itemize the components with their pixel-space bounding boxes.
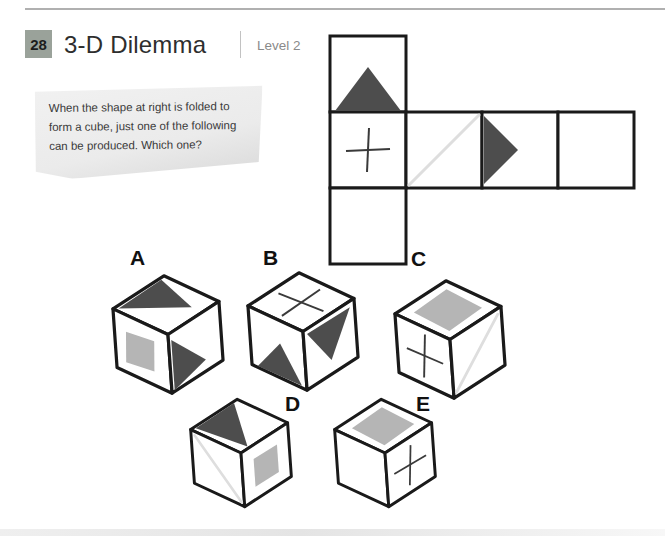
- option-cube-d[interactable]: [184, 390, 298, 515]
- page-title: 3-D Dilemma: [64, 31, 206, 59]
- option-label-c: C: [411, 247, 426, 271]
- header-divider: [240, 31, 241, 58]
- question-line: When the shape at right is folded to: [33, 85, 263, 118]
- top-rule: [25, 8, 665, 10]
- puzzle-number-badge: 28: [25, 30, 52, 58]
- option-cube-e[interactable]: [328, 390, 442, 515]
- puzzle-page: 28 3-D Dilemma Level 2 When the shape at…: [0, 0, 665, 541]
- option-cube-c[interactable]: [388, 271, 513, 408]
- question-line: can be produced. Which one?: [33, 135, 263, 156]
- level-label: Level 2: [257, 38, 301, 53]
- option-cube-a[interactable]: [106, 266, 231, 403]
- question-box: When the shape at right is folded to for…: [33, 85, 264, 179]
- bottom-band: [0, 529, 665, 536]
- gray-square-icon: [350, 213, 384, 247]
- net-cell-mid-4: [558, 112, 634, 188]
- option-label-b: B: [263, 246, 278, 270]
- cube-net: [328, 34, 638, 268]
- question-line: form a cube, just one of the following: [33, 116, 263, 137]
- option-cube-b[interactable]: [241, 263, 366, 400]
- option-label-a: A: [130, 246, 145, 270]
